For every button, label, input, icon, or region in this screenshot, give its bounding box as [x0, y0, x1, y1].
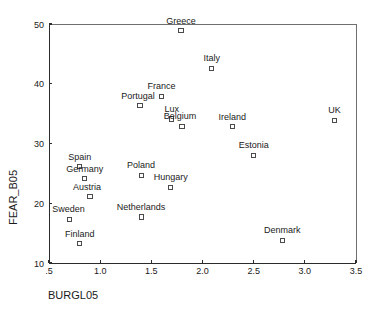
data-point-label: Germany: [66, 164, 104, 174]
y-tick-label: 20: [34, 199, 44, 209]
x-tick-label: 2.0: [196, 266, 209, 276]
data-point-label: France: [148, 81, 176, 91]
data-point-marker[interactable]: [210, 66, 214, 70]
y-tick-label: 30: [34, 139, 44, 149]
x-tick-label: 2.5: [247, 266, 260, 276]
data-point-label: Greece: [166, 16, 196, 26]
data-point-marker[interactable]: [88, 195, 92, 199]
y-tick-label: 10: [34, 259, 44, 269]
data-point-label: Hungary: [154, 172, 189, 182]
data-point-marker[interactable]: [138, 104, 142, 108]
data-point-label: Spain: [68, 152, 91, 162]
data-point-marker[interactable]: [169, 185, 173, 189]
data-point-marker[interactable]: [252, 153, 256, 157]
data-point-marker[interactable]: [78, 242, 82, 246]
data-point-marker[interactable]: [180, 124, 184, 128]
data-point-group: GreeceItalyFrancePortugalLuxBelgiumIrela…: [52, 16, 341, 246]
y-axis-title: FEAR_B05: [7, 170, 19, 225]
data-point-label: Belgium: [164, 111, 197, 121]
data-point-label: Netherlands: [117, 202, 166, 212]
x-axis-title: BURGL05: [48, 289, 98, 301]
data-point-marker[interactable]: [159, 94, 163, 98]
data-point-marker[interactable]: [230, 125, 234, 129]
data-point-label: Finland: [65, 229, 95, 239]
plot-svg: .51.01.52.02.53.03.5 1020304050 GreeceIt…: [0, 0, 380, 317]
data-point-marker[interactable]: [139, 215, 143, 219]
x-tick-label: 3.0: [299, 266, 312, 276]
data-point-marker[interactable]: [179, 28, 183, 32]
data-point-label: Estonia: [239, 140, 269, 150]
data-point-label: Sweden: [52, 204, 85, 214]
data-point-label: Ireland: [218, 112, 246, 122]
scatter-plot: .51.01.52.02.53.03.5 1020304050 GreeceIt…: [0, 0, 380, 317]
x-tick-label: 1.5: [145, 266, 158, 276]
data-point-label: Italy: [203, 53, 220, 63]
y-tick-label: 50: [34, 20, 44, 30]
x-tick-label: 1.0: [94, 266, 107, 276]
data-point-marker[interactable]: [83, 177, 87, 181]
x-axis-ticks: .51.01.52.02.53.03.5: [45, 260, 362, 276]
data-point-marker[interactable]: [67, 217, 71, 221]
data-point-label: Portugal: [121, 91, 155, 101]
data-point-label: UK: [328, 105, 341, 115]
x-tick-label: 3.5: [350, 266, 363, 276]
data-point-marker[interactable]: [280, 238, 284, 242]
x-tick-label: .5: [45, 266, 53, 276]
y-tick-label: 40: [34, 79, 44, 89]
data-point-label: Austria: [73, 182, 101, 192]
data-point-label: Denmark: [264, 225, 301, 235]
data-point-label: Poland: [127, 160, 155, 170]
data-point-marker[interactable]: [332, 118, 336, 122]
data-point-marker[interactable]: [139, 173, 143, 177]
